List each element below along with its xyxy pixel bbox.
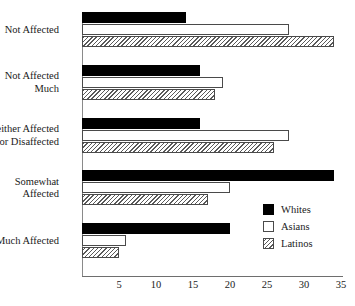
x-axis-tick-label: 30 (289, 279, 319, 290)
bar-asians (82, 24, 289, 35)
bar-whites (82, 65, 200, 76)
bar-latinos (82, 194, 208, 205)
bar-asians (82, 77, 223, 88)
bar-latinos (82, 247, 119, 258)
bar-row (0, 24, 355, 35)
x-axis-tick-label: 20 (215, 279, 245, 290)
bar-row (0, 65, 355, 76)
diagonal-hatch-swatch (263, 238, 274, 249)
x-axis-tick-label: 5 (104, 279, 134, 290)
bar-whites (82, 223, 230, 234)
bar-asians (82, 182, 230, 193)
legend-item: Latinos (263, 235, 313, 252)
bar-group: Neither Affected Nor Disaffected (0, 118, 355, 154)
bar-row (0, 89, 355, 100)
legend-item: Asians (263, 218, 313, 235)
bar-latinos (82, 142, 274, 153)
x-axis-tick-label: 10 (141, 279, 171, 290)
bar-group: Not Affected Much (0, 65, 355, 101)
x-axis-tick-label: 15 (178, 279, 208, 290)
bar-group: Not Affected (0, 12, 355, 48)
bar-row (0, 77, 355, 88)
bar-whites (82, 170, 334, 181)
bar-latinos (82, 36, 334, 47)
x-axis-tick-label: 25 (252, 279, 282, 290)
bar-chart: Not AffectedNot Affected MuchNeither Aff… (0, 0, 355, 306)
x-axis-tick-label: 35 (326, 279, 355, 290)
x-axis-line (82, 276, 343, 277)
bar-whites (82, 12, 186, 23)
solid-black-swatch (263, 204, 274, 215)
bar-asians (82, 130, 289, 141)
legend-item: Whites (263, 201, 313, 218)
bar-latinos (82, 89, 215, 100)
bar-row (0, 118, 355, 129)
legend-label: Asians (281, 221, 310, 232)
bar-whites (82, 118, 200, 129)
bar-row (0, 130, 355, 141)
bar-row (0, 170, 355, 181)
bar-row (0, 12, 355, 23)
bar-row (0, 182, 355, 193)
bar-row (0, 36, 355, 47)
outline-white-swatch (263, 221, 274, 232)
legend-label: Latinos (281, 238, 313, 249)
bar-asians (82, 235, 126, 246)
chart-legend: WhitesAsiansLatinos (263, 201, 313, 252)
legend-label: Whites (281, 204, 311, 215)
bar-row (0, 142, 355, 153)
